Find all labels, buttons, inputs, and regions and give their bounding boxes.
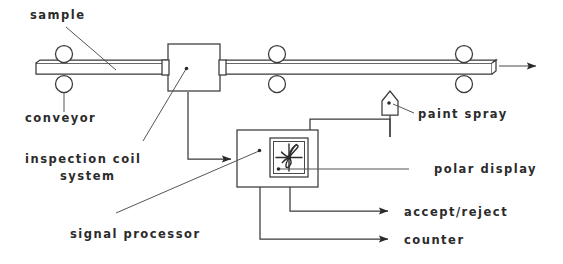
sample-bar (36, 60, 496, 74)
coil-body (168, 44, 220, 91)
coil-to-processor-link (188, 92, 231, 159)
inspection-coil-box (162, 44, 226, 91)
roller-bottom-mid (269, 76, 286, 93)
signal-processor-box (237, 130, 318, 187)
processor-to-counter-link (260, 187, 388, 239)
leader-dot-display (277, 167, 281, 171)
label-conveyor: conveyor (25, 111, 96, 125)
roller-bottom-left (56, 76, 73, 93)
processor-to-accept-reject-link (290, 187, 388, 211)
processor-to-spray-link (310, 119, 390, 137)
leader-dot-coil (185, 67, 189, 71)
roller-top-mid (269, 46, 286, 63)
roller-bottom-right (456, 76, 473, 93)
label-signal-processor: signal processor (70, 227, 201, 241)
label-inspection-coil-line2: system (60, 169, 115, 183)
label-inspection-coil-line1: inspection coil (25, 152, 141, 166)
diagram-canvas: sample conveyor inspection coil system s… (0, 0, 563, 264)
label-paint-spray: paint spray (418, 107, 508, 121)
coil-collar-left (162, 60, 169, 75)
leader-inspection-coil (143, 69, 186, 141)
roller-top-left (56, 46, 73, 63)
inspection-system-diagram: sample conveyor inspection coil system s… (0, 0, 563, 264)
label-sample: sample (30, 8, 86, 22)
leader-dot-processor (258, 149, 262, 153)
nozzle-tip-dot (387, 101, 391, 105)
coil-collar-right (219, 60, 226, 75)
roller-top-right (456, 46, 473, 63)
label-accept-reject: accept/reject (404, 205, 508, 219)
label-polar-display: polar display (434, 162, 537, 176)
label-counter: counter (404, 233, 465, 247)
